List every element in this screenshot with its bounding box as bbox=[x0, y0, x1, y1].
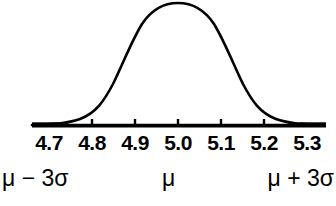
axis-tick-label-7: 5.3 bbox=[283, 131, 331, 155]
bell-curve-path bbox=[32, 3, 324, 125]
axis-tick-label-row: 4.7 4.8 4.9 5.0 5.1 5.2 5.3 bbox=[0, 131, 336, 157]
sigma-annotation-row: μ − 3σ μ μ + 3σ bbox=[0, 164, 336, 198]
axis-tick-label-1: 4.7 bbox=[25, 131, 73, 155]
annotation-mean: μ bbox=[162, 164, 175, 192]
axis-tick-label-5: 5.1 bbox=[197, 131, 245, 155]
axis-tick-label-3: 4.9 bbox=[111, 131, 159, 155]
normal-distribution-figure: 4.7 4.8 4.9 5.0 5.1 5.2 5.3 μ − 3σ μ μ +… bbox=[0, 0, 336, 206]
axis-tick-label-4: 5.0 bbox=[154, 131, 202, 155]
axis-tick-label-2: 4.8 bbox=[68, 131, 116, 155]
axis-tick-label-6: 5.2 bbox=[240, 131, 288, 155]
annotation-minus-three-sigma: μ − 3σ bbox=[2, 164, 68, 192]
annotation-plus-three-sigma: μ + 3σ bbox=[268, 164, 334, 192]
